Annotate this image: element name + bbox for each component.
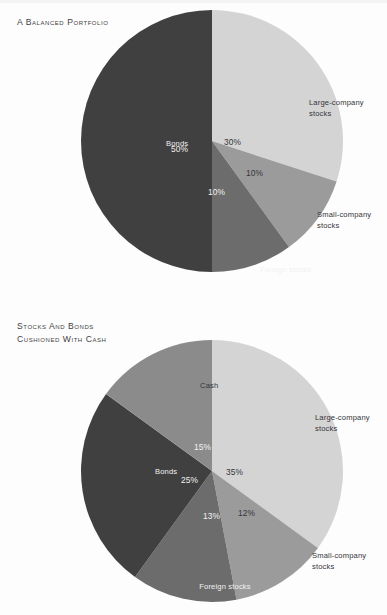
document-page: A Balanced Portfolio Large-companystocks… [0, 0, 387, 615]
pie-slice-bonds [81, 10, 212, 272]
percent-label-pct-12: 12% [238, 508, 256, 518]
pie-slice-group-1 [81, 10, 343, 272]
chart-section-stocks-bonds-cash: Stocks and Bonds Cushioned with Cash Lar… [0, 307, 387, 615]
pie-svg-2: Large-companystocksSmall-companystocksFo… [81, 340, 343, 602]
pie-chart-stocks-bonds-cash: Large-companystocksSmall-companystocksFo… [81, 340, 343, 602]
percent-label-pct-13: 13% [203, 511, 221, 521]
percent-label-pct-35: 35% [226, 467, 244, 477]
slice-label-cash: Cash [200, 381, 218, 390]
slice-label-small-company: Small-companystocks [312, 551, 366, 571]
pie-chart-balanced-portfolio: Large-companystocksSmall-companystocksFo… [81, 10, 343, 272]
percent-label-pct-25: 25% [181, 475, 199, 485]
percent-label-pct-30: 30% [224, 137, 242, 147]
percent-label-pct-15: 15% [194, 442, 212, 452]
percent-label-pct-10-foreign: 10% [208, 187, 226, 197]
chart-section-balanced-portfolio: A Balanced Portfolio Large-companystocks… [0, 0, 387, 307]
slice-label-bonds: Bonds [155, 467, 177, 476]
percent-label-pct-10-small: 10% [246, 168, 264, 178]
pie-slice-group-2 [81, 340, 343, 602]
slice-label-small-company: Small-companystocks [317, 210, 371, 230]
slice-label-foreign: Foreign stocks [199, 582, 251, 591]
percent-label-pct-50: 50% [171, 144, 189, 154]
slice-label-foreign: Foreign stocks [260, 265, 312, 274]
pie-svg-1: Large-companystocksSmall-companystocksFo… [81, 10, 343, 272]
